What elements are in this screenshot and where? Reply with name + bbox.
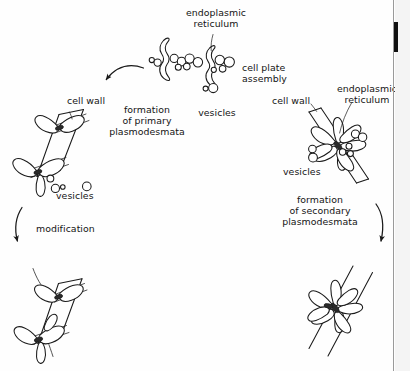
label-vesicles-top: vesicles bbox=[187, 107, 247, 118]
plasmodesmata-diagram: .s { fill:none; stroke:#1a1a1a; stroke-w… bbox=[0, 0, 410, 371]
page-edge-line bbox=[393, 0, 394, 371]
label-formation-secondary: formation of secondary plasmodesmata bbox=[272, 194, 368, 228]
label-formation-primary: formation of primary plasmodesmata bbox=[99, 104, 195, 138]
arrow-modification bbox=[16, 208, 22, 242]
plasmodesma-branched bbox=[14, 314, 69, 363]
endoplasmic-reticulum-shape bbox=[160, 38, 170, 80]
plasmodesma-radial-cluster bbox=[308, 280, 363, 333]
primary-plasmodesmata-group bbox=[13, 110, 91, 197]
cell-wall-band bbox=[59, 110, 84, 115]
label-vesicles-right: vesicles bbox=[283, 166, 343, 177]
label-endoplasmic-reticulum-top: endoplasmic reticulum bbox=[176, 7, 256, 29]
label-vesicles-left: vesicles bbox=[56, 190, 116, 201]
plasmodesma-bowtie bbox=[33, 269, 87, 303]
label-modification: modification bbox=[36, 223, 126, 234]
page-edge-marker bbox=[394, 22, 398, 52]
cell-plate-assembly-group bbox=[149, 35, 234, 93]
plasmodesma-bowtie bbox=[35, 114, 89, 133]
label-cell-plate-assembly: cell plate assembly bbox=[242, 62, 322, 84]
figure-page: .s { fill:none; stroke:#1a1a1a; stroke-w… bbox=[0, 0, 410, 371]
arrow-secondary bbox=[376, 204, 383, 241]
page-edge-shade bbox=[395, 0, 410, 371]
modified-plasmodesmata-group bbox=[14, 269, 87, 364]
arrow-assembly-to-primary bbox=[106, 66, 143, 80]
secondary-plasmodesmata-group bbox=[308, 266, 373, 356]
endoplasmic-reticulum-shape bbox=[206, 46, 216, 87]
label-cell-wall-right: cell wall bbox=[272, 95, 332, 106]
label-cell-wall-left: cell wall bbox=[67, 95, 127, 106]
